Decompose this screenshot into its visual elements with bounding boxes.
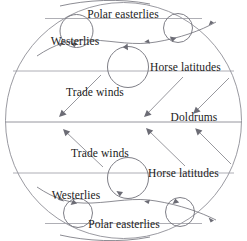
south-trade-wind-arrow-3-line [197, 130, 231, 164]
south-trade-wind-arrow-2-line [148, 130, 185, 166]
label-north-polar-easterlies: Polar easterlies [87, 8, 159, 20]
north-polar-cell-circle-right [164, 14, 193, 43]
label-north-trade-winds: Trade winds [66, 86, 124, 98]
label-doldrums: Doldrums [171, 111, 218, 123]
north-ferrel-cell-circle [108, 47, 149, 88]
north-trade-wind-arrow-2-line [146, 77, 183, 115]
south-polar-flow-arrow-2 [144, 200, 150, 204]
north-trade-wind-arrow-3-line [195, 78, 229, 112]
diagram-canvas: Polar easterlies Westerlies Horse latitu… [0, 0, 247, 241]
label-north-horse-latitudes: Horse latitudes [150, 61, 221, 73]
label-north-westerlies: Westerlies [51, 35, 100, 47]
label-south-polar-easterlies: Polar easterlies [88, 218, 160, 230]
north-ferrel-cell-arrowhead [123, 43, 128, 50]
south-polar-cell-circle-right [166, 198, 195, 227]
wind-circulation-diagram: Polar easterlies Westerlies Horse latitu… [0, 0, 247, 241]
label-south-westerlies: Westerlies [52, 189, 101, 201]
south-ferrel-cell-circle [108, 158, 149, 199]
north-ferrel-cell-group [108, 43, 149, 87]
south-ferrel-cell-group [108, 158, 149, 199]
label-south-trade-winds: Trade winds [71, 147, 129, 159]
label-south-horse-latitudes: Horse latitudes [148, 167, 219, 179]
